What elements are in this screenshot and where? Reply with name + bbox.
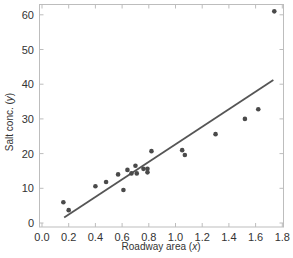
x-tick-label: 1.8 <box>275 231 290 243</box>
y-tick-label: 0 <box>28 217 34 229</box>
x-tick-label: 0.0 <box>34 231 49 243</box>
y-tick-label: 30 <box>22 113 34 125</box>
data-point <box>213 132 218 137</box>
data-points <box>61 9 277 212</box>
data-point <box>256 107 261 112</box>
data-point <box>116 172 121 177</box>
data-point <box>125 168 130 173</box>
data-point <box>149 149 154 154</box>
y-tick-label: 60 <box>22 9 34 21</box>
y-tick-label: 50 <box>22 44 34 56</box>
axis-ticks <box>40 5 284 228</box>
regression-line <box>64 80 273 217</box>
y-tick-label: 20 <box>22 148 34 160</box>
x-tick-label: 0.4 <box>88 231 103 243</box>
data-point <box>183 153 188 158</box>
y-tick-label: 10 <box>22 182 34 194</box>
data-point <box>243 117 248 122</box>
data-point <box>121 188 126 193</box>
x-tick-label: 1.4 <box>221 231 236 243</box>
data-point <box>272 9 277 14</box>
data-point <box>133 163 138 168</box>
plot-frame <box>40 5 284 228</box>
data-point <box>129 171 134 176</box>
data-point <box>66 208 71 213</box>
y-tick-labels: 0102030405060 <box>22 9 34 229</box>
scatter-chart: 0.00.20.40.60.81.01.21.41.61.8 010203040… <box>0 0 293 258</box>
data-point <box>141 167 146 172</box>
y-axis-title: Salt conc. (y) <box>4 93 15 151</box>
data-point <box>93 184 98 189</box>
data-point <box>134 171 139 176</box>
y-tick-label: 40 <box>22 78 34 90</box>
x-tick-label: 0.2 <box>61 231 76 243</box>
data-point <box>145 170 150 175</box>
data-point <box>104 180 109 185</box>
data-point <box>180 148 185 153</box>
data-point <box>61 200 66 205</box>
fit-line <box>64 80 273 217</box>
x-tick-label: 1.6 <box>248 231 263 243</box>
x-axis-title: Roadway area (x) <box>122 241 201 252</box>
